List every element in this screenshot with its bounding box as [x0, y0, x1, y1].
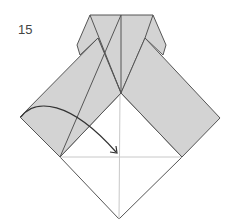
origami-diagram	[0, 0, 229, 224]
